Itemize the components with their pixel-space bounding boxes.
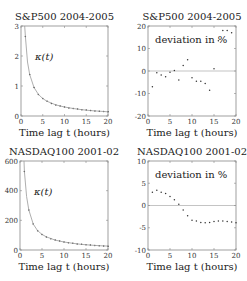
chart-annotation: κ(t) <box>33 186 52 197</box>
figure-canvas: S&P500 2004-2005051015200123Time lag t (… <box>0 0 247 281</box>
sp500-deviation-panel: S&P500 2004-200505101520-20-1001020Time … <box>135 11 242 138</box>
data-point <box>178 79 180 81</box>
data-point <box>182 65 184 67</box>
y-tick-label: 20 <box>137 23 146 31</box>
chart-title: NASDAQ100 2001-02 <box>9 146 119 157</box>
data-point <box>209 222 211 224</box>
chart-title: S&P500 2004-2005 <box>142 11 241 22</box>
x-tick-label: 5 <box>41 118 45 126</box>
chart-title: NASDAQ100 2001-02 <box>137 146 247 157</box>
data-point <box>191 77 193 79</box>
data-point <box>226 221 228 223</box>
x-tick-label: 10 <box>188 252 197 260</box>
chart-title: S&P500 2004-2005 <box>15 11 114 22</box>
y-tick-label: 600 <box>5 158 18 166</box>
data-point <box>174 199 176 201</box>
x-tick-label: 10 <box>60 118 69 126</box>
data-point <box>218 40 220 42</box>
x-tick-label: 20 <box>104 252 113 260</box>
data-point <box>178 203 180 205</box>
data-point <box>187 59 189 61</box>
y-tick-label: 0 <box>15 113 19 121</box>
x-tick-label: 5 <box>40 252 44 260</box>
nasdaq-kappa-panel: NASDAQ100 2001-02051015200200400600Time … <box>5 146 119 272</box>
data-point <box>165 193 167 195</box>
x-axis-label: Time lag t (hours) <box>19 127 110 138</box>
fit-curve <box>25 26 108 112</box>
x-tick-label: 15 <box>210 252 219 260</box>
y-tick-label: 2 <box>15 53 19 61</box>
x-tick-label: 20 <box>232 118 241 126</box>
x-axis-label: Time lag t (hours) <box>146 261 237 272</box>
data-point <box>196 220 198 222</box>
x-tick-label: 0 <box>18 252 22 260</box>
data-point <box>160 74 162 76</box>
y-tick-label: 10 <box>137 158 146 166</box>
plot-frame <box>21 26 108 116</box>
x-tick-label: 10 <box>188 118 197 126</box>
data-point <box>200 80 202 82</box>
y-tick-label: 0 <box>14 247 18 255</box>
x-tick-label: 10 <box>60 252 69 260</box>
y-tick-label: -10 <box>135 90 146 98</box>
data-point <box>152 86 154 88</box>
x-tick-label: 20 <box>232 252 241 260</box>
data-point <box>152 191 154 193</box>
data-point <box>235 222 237 224</box>
data-point <box>160 191 162 193</box>
data-point <box>204 83 206 85</box>
data-point <box>204 222 206 224</box>
x-tick-label: 20 <box>104 118 113 126</box>
x-tick-label: 15 <box>210 118 219 126</box>
y-tick-label: 1 <box>15 83 19 91</box>
x-tick-label: 5 <box>168 118 172 126</box>
y-tick-label: 3 <box>15 23 19 31</box>
chart-annotation: κ(t) <box>34 51 53 62</box>
data-point <box>169 71 171 73</box>
data-point <box>169 196 171 198</box>
data-point <box>165 76 167 78</box>
y-tick-label: 5 <box>142 180 146 188</box>
chart-annotation: deviation in % <box>155 34 227 45</box>
data-point <box>182 209 184 211</box>
data-point <box>213 68 215 70</box>
y-tick-label: 0 <box>142 202 146 210</box>
nasdaq-deviation-panel: NASDAQ100 2001-0205101520-10-50510Time l… <box>135 146 247 272</box>
y-tick-label: 0 <box>142 68 146 76</box>
data-point <box>222 30 224 32</box>
data-point <box>209 89 211 91</box>
y-tick-label: -10 <box>135 247 146 255</box>
x-tick-label: 15 <box>82 252 91 260</box>
y-tick-label: 10 <box>137 45 146 53</box>
data-point <box>231 221 233 223</box>
y-tick-label: 200 <box>5 217 18 225</box>
x-tick-label: 15 <box>82 118 91 126</box>
fit-curve <box>24 161 108 246</box>
plot-frame <box>20 161 108 250</box>
x-axis-label: Time lag t (hours) <box>146 127 237 138</box>
data-point <box>196 80 198 82</box>
data-point <box>222 220 224 222</box>
x-tick-label: 5 <box>168 252 172 260</box>
x-tick-label: 0 <box>146 118 150 126</box>
data-point <box>231 32 233 34</box>
data-point <box>174 70 176 72</box>
sp500-kappa-panel: S&P500 2004-2005051015200123Time lag t (… <box>15 11 114 138</box>
x-tick-label: 0 <box>19 118 23 126</box>
data-point <box>191 219 193 221</box>
data-point <box>156 190 158 192</box>
data-point <box>187 215 189 217</box>
data-point <box>226 30 228 32</box>
x-tick-label: 0 <box>146 252 150 260</box>
data-point <box>218 220 220 222</box>
data-point <box>200 222 202 224</box>
x-axis-label: Time lag t (hours) <box>18 261 109 272</box>
data-point <box>156 72 158 74</box>
chart-annotation: deviation in % <box>155 169 227 180</box>
data-point <box>213 221 215 223</box>
y-tick-label: -20 <box>135 113 146 121</box>
y-tick-label: -5 <box>139 224 146 232</box>
y-tick-label: 400 <box>5 187 18 195</box>
